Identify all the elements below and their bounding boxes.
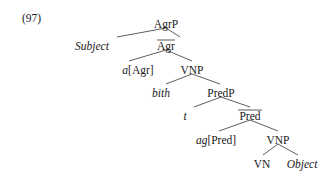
tree-node-t: t [183, 110, 187, 122]
tree-node-bith: bith [152, 87, 170, 99]
tree-node-agpred: ag[Pred] [196, 134, 236, 147]
tree-node-predp: PredP [207, 87, 234, 99]
tree-node-subject: Subject [75, 40, 110, 53]
tree-node-vn: VN [254, 158, 271, 170]
tree-svg: AgrPSubjectAgra[Agr]VNPbithPredPtPredag[… [0, 0, 325, 186]
tree-node-aagr: a[Agr] [122, 64, 153, 77]
tree-node-agrp: AgrP [154, 18, 178, 31]
tree-node-vnp2: VNP [266, 134, 289, 146]
tree-node-object: Object [287, 158, 318, 171]
tree-node-vnp1: VNP [180, 64, 203, 76]
tree-node-pred: Pred [239, 110, 260, 122]
tree-node-agr: Agr [157, 40, 175, 53]
